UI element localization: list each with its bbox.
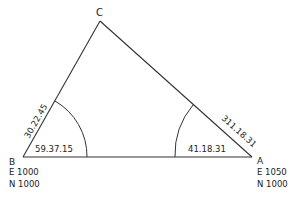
a-easting: E 1050 bbox=[257, 167, 287, 177]
angle-b-value: 59.37.15 bbox=[35, 144, 73, 154]
side-ca bbox=[100, 21, 252, 157]
vertex-label-b: B bbox=[9, 157, 15, 167]
side-bc bbox=[23, 21, 100, 157]
angle-a-value: 41.18.31 bbox=[188, 144, 226, 154]
vertex-label-a: A bbox=[257, 156, 264, 166]
b-northing: N 1000 bbox=[9, 179, 40, 189]
survey-triangle-diagram: C B A E 1000 N 1000 E 1050 N 1000 59.37.… bbox=[0, 0, 299, 200]
vertex-label-c: C bbox=[96, 7, 103, 18]
b-easting: E 1000 bbox=[9, 167, 39, 177]
a-northing: N 1000 bbox=[257, 179, 288, 189]
